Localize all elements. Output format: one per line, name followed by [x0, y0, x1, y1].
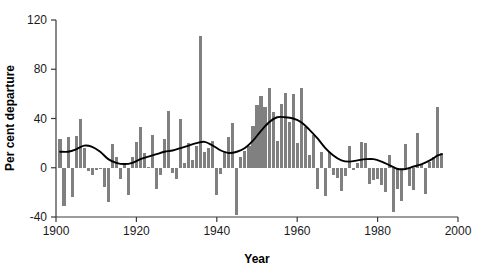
bars-layer	[58, 36, 443, 215]
bar	[384, 168, 387, 193]
bar	[392, 168, 395, 212]
x-tick-label: 1920	[123, 224, 150, 238]
bar	[195, 146, 198, 168]
bar	[111, 144, 114, 167]
bar	[396, 168, 399, 189]
bar	[304, 127, 307, 168]
bar	[243, 151, 246, 168]
bar	[336, 168, 339, 178]
bar	[320, 152, 323, 168]
bar	[107, 168, 110, 202]
bar	[147, 167, 150, 168]
bar	[340, 168, 343, 191]
bar	[99, 168, 102, 169]
bar	[58, 139, 61, 167]
y-tick-label: 0	[40, 161, 47, 175]
y-tick-label: -40	[30, 210, 48, 224]
bar	[344, 168, 347, 177]
bar	[364, 143, 367, 168]
bar	[83, 148, 86, 168]
bar	[163, 139, 166, 167]
bar	[428, 162, 431, 168]
bar	[155, 168, 158, 189]
bar	[75, 136, 78, 168]
bar	[159, 168, 162, 175]
bar	[368, 168, 371, 184]
bar	[135, 142, 138, 168]
x-tick-label: 1900	[43, 224, 70, 238]
bar	[167, 111, 170, 168]
bar	[284, 93, 287, 168]
x-tick-label: 1940	[203, 224, 230, 238]
bar	[416, 133, 419, 167]
bar	[372, 168, 375, 180]
bar	[296, 143, 299, 168]
bar	[404, 144, 407, 167]
bar	[203, 152, 206, 168]
bar	[332, 168, 335, 175]
bar	[268, 88, 271, 168]
bar	[207, 148, 210, 168]
bar	[400, 168, 403, 201]
bar	[239, 157, 242, 168]
bar	[235, 168, 238, 215]
bar	[215, 168, 218, 195]
bar	[91, 168, 94, 175]
bar	[348, 146, 351, 168]
bar	[79, 119, 82, 168]
bar	[352, 168, 355, 170]
x-axis-title: Year	[244, 252, 270, 266]
bar	[183, 163, 186, 168]
bar	[71, 168, 74, 198]
bar	[380, 168, 383, 185]
bar	[376, 168, 379, 179]
y-tick-label: 120	[27, 13, 47, 27]
y-tick-label: 40	[34, 112, 48, 126]
bar	[263, 107, 266, 167]
bar	[408, 168, 411, 186]
bar	[276, 141, 279, 168]
bar	[143, 153, 146, 168]
bar	[151, 135, 154, 168]
bar	[247, 146, 250, 168]
x-tick-label: 1960	[284, 224, 311, 238]
bar	[171, 168, 174, 173]
bar	[219, 168, 222, 174]
bar	[231, 123, 234, 167]
bar	[175, 168, 178, 179]
bar	[424, 168, 427, 194]
y-tick-label: 80	[34, 62, 48, 76]
chart-container: -4004080120 190019201940196019802000 Yea…	[0, 0, 490, 271]
bar	[139, 127, 142, 168]
bar	[127, 168, 130, 195]
bar	[324, 168, 327, 196]
bar	[356, 163, 359, 168]
bar	[251, 126, 254, 168]
bar	[312, 135, 315, 168]
bar	[119, 168, 122, 179]
x-tick-label: 2000	[445, 224, 472, 238]
bar	[103, 168, 106, 188]
x-tick-label: 1980	[364, 224, 391, 238]
bar	[292, 94, 295, 168]
bar	[288, 122, 291, 168]
bar	[436, 107, 439, 167]
x-axis-ticks: 190019201940196019802000	[43, 217, 472, 238]
departure-bar-chart: -4004080120 190019201940196019802000 Yea…	[0, 0, 490, 271]
bar	[62, 168, 65, 206]
y-axis-title: Per cent departure	[3, 65, 17, 171]
bar	[199, 36, 202, 168]
bar	[191, 160, 194, 167]
y-axis-ticks: -4004080120	[27, 13, 56, 224]
bar	[95, 168, 98, 170]
bar	[360, 142, 363, 168]
bar	[308, 155, 311, 167]
bar	[280, 104, 283, 168]
bar	[412, 168, 415, 190]
bar	[87, 168, 90, 172]
bar	[300, 88, 303, 168]
bar	[179, 119, 182, 168]
bar	[316, 168, 319, 189]
